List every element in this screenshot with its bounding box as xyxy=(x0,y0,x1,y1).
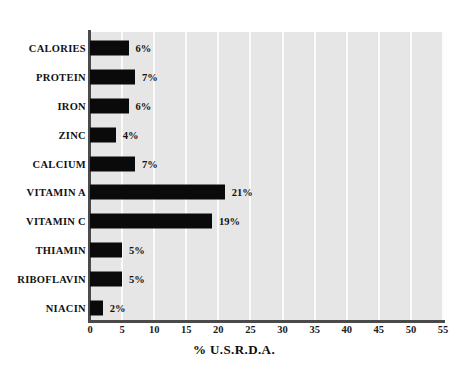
gridline xyxy=(249,32,251,320)
gridline xyxy=(185,32,187,320)
gridline xyxy=(282,32,284,320)
x-axis-title: % U.S.R.D.A. xyxy=(0,342,468,358)
bar-category-label: VITAMIN C xyxy=(26,216,86,227)
bar-chart: CALORIES6%PROTEIN7%IRON6%ZINC4%CALCIUM7%… xyxy=(0,0,468,365)
x-tick-label: 25 xyxy=(245,324,256,335)
gridline xyxy=(410,32,412,320)
x-tick-label: 55 xyxy=(438,324,449,335)
gridline xyxy=(121,32,123,320)
plot-area xyxy=(90,32,443,320)
bar-category-label: THIAMIN xyxy=(35,244,86,255)
x-tick-label: 20 xyxy=(213,324,224,335)
x-tick-label: 50 xyxy=(406,324,417,335)
x-tick-label: 15 xyxy=(181,324,192,335)
x-tick-label: 10 xyxy=(149,324,160,335)
x-tick-label: 35 xyxy=(309,324,320,335)
bar-category-label: RIBOFLAVIN xyxy=(17,273,86,284)
bar-category-label: VITAMIN A xyxy=(27,187,86,198)
gridlines xyxy=(90,32,443,320)
bar-category-label: ZINC xyxy=(59,129,86,140)
x-tick-label: 30 xyxy=(277,324,288,335)
bar-category-label: NIACIN xyxy=(46,302,86,313)
x-tick-label: 45 xyxy=(374,324,385,335)
gridline xyxy=(217,32,219,320)
gridline xyxy=(378,32,380,320)
bar-category-label: CALORIES xyxy=(29,43,86,54)
gridline xyxy=(153,32,155,320)
x-tick-label: 40 xyxy=(341,324,352,335)
gridline xyxy=(346,32,348,320)
y-axis-line xyxy=(88,30,91,322)
bar-category-label: IRON xyxy=(57,100,86,111)
bar-category-label: PROTEIN xyxy=(36,72,86,83)
gridline xyxy=(314,32,316,320)
x-tick-label: 5 xyxy=(119,324,124,335)
x-axis-line xyxy=(88,320,445,323)
bar-category-label: CALCIUM xyxy=(33,158,86,169)
gridline xyxy=(442,32,444,320)
x-tick-label: 0 xyxy=(87,324,92,335)
